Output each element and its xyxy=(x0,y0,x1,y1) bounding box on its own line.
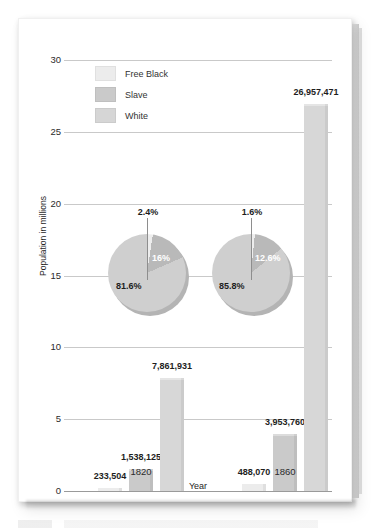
page-edge-shading-inner xyxy=(356,28,362,494)
bar-value-1820-white: 7,861,931 xyxy=(143,361,201,371)
ytick-10-wrap: 10 xyxy=(31,341,61,353)
chart-page: 30 25 20 15 10 5 0 Population in million… xyxy=(18,18,352,502)
figure-caption-partial xyxy=(18,520,318,528)
ytick-5-wrap: 5 xyxy=(31,413,61,425)
legend-label-free-black: Free Black xyxy=(125,69,168,79)
ytick-label-25: 25 xyxy=(37,126,61,137)
xtick-label-1860: 1860 xyxy=(255,466,315,477)
pie-1860-label-white: 85.8% xyxy=(219,281,245,291)
page-drop-shadow xyxy=(26,500,356,510)
pie-1820-label-slave: 16% xyxy=(152,253,170,263)
xtick-label-1820: 1820 xyxy=(111,466,171,477)
pie-1820-label-free-black: 2.4% xyxy=(126,207,170,217)
y-axis-label: Population in millions xyxy=(38,176,48,296)
legend-swatch-slave xyxy=(95,87,116,102)
gridline-25 xyxy=(64,132,332,133)
ytick-label-30: 30 xyxy=(37,54,61,65)
ytick-30-wrap: 30 xyxy=(31,54,61,66)
legend-item-white: White xyxy=(95,105,168,126)
bar-value-1860-white: 26,957,471 xyxy=(280,87,352,97)
gridline-20 xyxy=(64,204,332,205)
gridline-30 xyxy=(64,60,332,61)
pie-1820-leader-line xyxy=(147,218,148,280)
legend-item-slave: Slave xyxy=(95,84,168,105)
legend-item-free-black: Free Black xyxy=(95,63,168,84)
pie-1860-label-free-black: 1.6% xyxy=(230,207,274,217)
axis-baseline xyxy=(64,491,332,492)
legend-swatch-free-black xyxy=(95,66,116,81)
chart-legend: Free Black Slave White xyxy=(95,63,168,126)
chart-plot-area: 30 25 20 15 10 5 0 Population in million… xyxy=(19,19,351,501)
bar-1860-white xyxy=(304,104,328,491)
bar-shade xyxy=(325,104,328,491)
ytick-0-wrap: 0 xyxy=(31,485,61,497)
legend-swatch-white xyxy=(95,108,116,123)
ytick-label-10: 10 xyxy=(37,341,61,352)
ytick-label-0: 0 xyxy=(37,485,61,496)
legend-label-white: White xyxy=(125,111,148,121)
legend-label-slave: Slave xyxy=(125,90,148,100)
ytick-25-wrap: 25 xyxy=(31,126,61,138)
ytick-label-5: 5 xyxy=(37,413,61,424)
gridline-10 xyxy=(64,347,332,348)
x-axis-label: Year xyxy=(64,481,332,491)
bar-shade xyxy=(181,378,184,491)
pie-1820-label-white: 81.6% xyxy=(116,281,142,291)
pie-1860-leader-line xyxy=(251,218,252,280)
pie-1860-label-slave: 12.6% xyxy=(255,253,281,263)
